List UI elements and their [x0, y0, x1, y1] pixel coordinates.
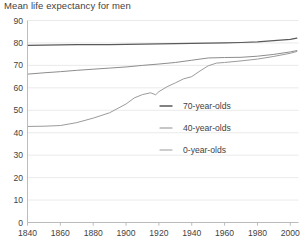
x-tick-label: 1860: [51, 228, 70, 238]
x-tick-label: 1940: [182, 228, 201, 238]
y-tick-label: 10: [13, 195, 23, 205]
y-tick-label: 90: [13, 16, 23, 26]
y-tick-label: 70: [13, 60, 23, 70]
series-line-0-year-olds: [28, 51, 297, 126]
series-line-40-year-olds: [28, 51, 297, 75]
x-tick-label: 1900: [116, 228, 135, 238]
legend-label: 70-year-olds: [183, 101, 231, 111]
y-tick-label: 60: [13, 83, 23, 93]
y-axis-tick-labels: 0102030405060708090: [13, 16, 23, 228]
y-tick-label: 30: [13, 150, 23, 160]
x-tick-label: 1880: [84, 228, 103, 238]
x-tick-label: 1960: [215, 228, 234, 238]
y-tick-label: 80: [13, 38, 23, 48]
x-axis-tick-marks: [28, 223, 291, 226]
x-axis-tick-labels: 184018601880190019201940196019802000: [18, 228, 300, 238]
x-tick-label: 2000: [281, 228, 300, 238]
x-tick-label: 1920: [149, 228, 168, 238]
y-tick-label: 40: [13, 128, 23, 138]
data-series-group: [28, 38, 297, 126]
chart-container: Mean life expectancy for men 01020304050…: [0, 0, 307, 248]
series-line-70-year-olds: [28, 38, 297, 45]
y-tick-label: 0: [18, 218, 23, 228]
y-tick-label: 20: [13, 173, 23, 183]
x-tick-label: 1840: [18, 228, 37, 238]
chart-legend: 70-year-olds40-year-olds0-year-olds: [160, 101, 231, 155]
legend-label: 40-year-olds: [183, 123, 231, 133]
x-tick-label: 1980: [248, 228, 267, 238]
line-chart: 0102030405060708090 18401860188019001920…: [0, 0, 307, 248]
gridlines: [28, 21, 299, 223]
legend-label: 0-year-olds: [183, 145, 226, 155]
y-tick-label: 50: [13, 105, 23, 115]
